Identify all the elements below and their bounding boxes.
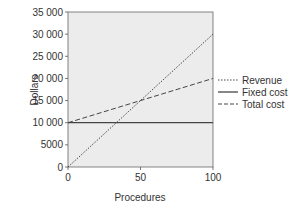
y-tick-label: 5000 — [41, 139, 64, 150]
y-tick-label: 35 000 — [32, 7, 63, 18]
y-tick-label: 25 000 — [32, 51, 63, 62]
y-tick-label: 30 000 — [32, 29, 63, 40]
y-axis-label: Dollars — [29, 74, 40, 105]
legend-label: Total cost — [242, 99, 284, 110]
plot-area — [68, 12, 213, 167]
x-tick-label: 100 — [205, 172, 222, 183]
legend: RevenueFixed costTotal cost — [218, 75, 288, 110]
chart: 0500010 00015 00020 00025 00030 00035 00… — [0, 0, 294, 210]
x-tick-label: 50 — [135, 172, 147, 183]
y-tick-label: 10 000 — [32, 117, 63, 128]
legend-label: Revenue — [242, 75, 282, 86]
x-tick-label: 0 — [65, 172, 71, 183]
x-axis-label: Procedures — [114, 192, 165, 203]
y-tick-label: 0 — [57, 162, 63, 173]
legend-label: Fixed cost — [242, 87, 288, 98]
